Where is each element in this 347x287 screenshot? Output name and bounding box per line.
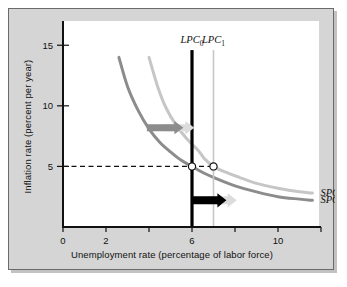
marker-equilibrium-1 [210,163,217,170]
x-tick-label: 10 [273,235,284,246]
y-axis-title: Inflation rate (percent per year) [22,47,33,207]
x-tick-label: 6 [189,235,194,246]
phillips-curve-chart: 02610 51015 SPC0SPC1 LPC0LPC1 [9,9,335,271]
x-axis-title: Unemployment rate (percentage of labor f… [9,249,335,260]
curve-labels: SPC0SPC1 [320,187,335,208]
y-tick-label: 15 [42,40,53,51]
figure-panel: 02610 51015 SPC0SPC1 LPC0LPC1 Inflation … [8,8,334,270]
x-tick-label: 0 [60,235,65,246]
marker-equilibrium-0 [188,163,195,170]
x-axis-ticks: 02610 [60,227,321,246]
x-tick-label: 2 [103,235,108,246]
y-tick-label: 5 [48,161,53,172]
y-tick-label: 10 [42,100,53,111]
